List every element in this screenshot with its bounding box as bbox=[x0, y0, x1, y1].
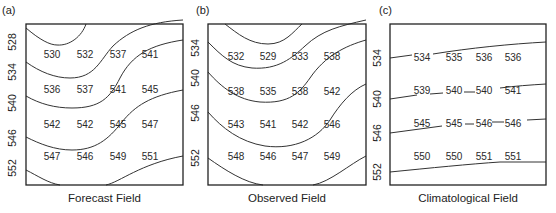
grid-value-label: 540 bbox=[446, 85, 463, 96]
y-tick-label: 528 bbox=[6, 33, 18, 51]
grid-value-label: 551 bbox=[476, 151, 493, 162]
grid-value-label: 545 bbox=[142, 84, 159, 95]
panel-label-a: (a) bbox=[2, 4, 15, 16]
grid-value-label: 548 bbox=[228, 151, 245, 162]
y-tick-label: 546 bbox=[189, 104, 201, 122]
grid-value-label: 535 bbox=[446, 52, 463, 63]
grid-value-label: 539 bbox=[414, 85, 431, 96]
panel-c: (c) 534540546552 53453553653653954054054… bbox=[371, 4, 546, 204]
grid-value-label: 549 bbox=[324, 151, 341, 162]
contour-line-534 bbox=[225, 24, 302, 44]
grid-value-label: 534 bbox=[414, 52, 431, 63]
y-tick-label: 546 bbox=[6, 129, 18, 147]
y-tick-label: 534 bbox=[371, 49, 383, 67]
grid-value-label: 532 bbox=[77, 49, 94, 60]
grid-value-label: 535 bbox=[260, 86, 277, 97]
caption-observed-field: Observed Field bbox=[248, 192, 326, 204]
grid-value-label: 529 bbox=[260, 51, 277, 62]
grid-value-label: 549 bbox=[110, 151, 127, 162]
grid-value-label: 541 bbox=[110, 84, 127, 95]
grid-value-label: 545 bbox=[414, 118, 431, 129]
panel-label-b: (b) bbox=[196, 4, 209, 16]
grid-value-label: 543 bbox=[228, 119, 245, 130]
y-tick-label: 540 bbox=[6, 94, 18, 112]
grid-value-label: 551 bbox=[505, 151, 522, 162]
y-tick-label: 540 bbox=[371, 90, 383, 108]
grid-value-label: 546 bbox=[260, 151, 277, 162]
grid-value-label: 547 bbox=[292, 151, 309, 162]
grid-value-label: 550 bbox=[446, 151, 463, 162]
grid-value-label: 542 bbox=[44, 119, 61, 130]
grid-value-label: 538 bbox=[292, 86, 309, 97]
y-tick-label: 552 bbox=[371, 163, 383, 181]
y-tick-label: 552 bbox=[6, 159, 18, 177]
grid-value-label: 530 bbox=[44, 49, 61, 60]
grid-value-label: 545 bbox=[110, 119, 127, 130]
y-tick-label: 534 bbox=[6, 63, 18, 81]
grid-value-label: 540 bbox=[476, 85, 493, 96]
contour-line-528 bbox=[26, 24, 86, 45]
grid-value-label: 547 bbox=[142, 119, 159, 130]
grid-value-label: 545 bbox=[446, 118, 463, 129]
grid-value-label: 541 bbox=[142, 49, 159, 60]
grid-value-label: 542 bbox=[324, 86, 341, 97]
panel-label-c: (c) bbox=[379, 4, 392, 16]
grid-value-label: 537 bbox=[77, 84, 94, 95]
grid-value-label: 551 bbox=[142, 151, 159, 162]
y-tick-label: 546 bbox=[371, 124, 383, 142]
caption-forecast-field: Forecast Field bbox=[68, 192, 141, 204]
grid-value-label: 546 bbox=[324, 119, 341, 130]
panel-a: (a) 528534540546552 53053253754153653754… bbox=[2, 4, 183, 204]
grid-value-label: 536 bbox=[476, 52, 493, 63]
grid-value-label: 536 bbox=[505, 52, 522, 63]
figure: (a) 528534540546552 53053253754153653754… bbox=[0, 0, 556, 213]
grid-value-label: 536 bbox=[44, 84, 61, 95]
grid-value-label: 538 bbox=[228, 86, 245, 97]
y-tick-label: 534 bbox=[189, 39, 201, 57]
grid-value-label: 541 bbox=[260, 119, 277, 130]
grid-value-label: 546 bbox=[77, 151, 94, 162]
grid-value-label: 542 bbox=[292, 119, 309, 130]
panel-b: (b) 534540546552 53252953353853853553854… bbox=[189, 4, 366, 204]
contour-line-552 bbox=[390, 162, 546, 172]
caption-climatological-field: Climatological Field bbox=[418, 192, 518, 204]
y-tick-label: 540 bbox=[189, 69, 201, 87]
grid-value-label: 538 bbox=[324, 51, 341, 62]
grid-value-label: 546 bbox=[505, 118, 522, 129]
grid-value-label: 542 bbox=[77, 119, 94, 130]
grid-value-label: 533 bbox=[292, 51, 309, 62]
grid-value-label: 547 bbox=[44, 151, 61, 162]
grid-value-label: 537 bbox=[110, 49, 127, 60]
grid-value-label: 550 bbox=[414, 151, 431, 162]
y-tick-label: 552 bbox=[189, 149, 201, 167]
grid-value-label: 546 bbox=[476, 118, 493, 129]
grid-value-label: 541 bbox=[505, 85, 522, 96]
grid-value-label: 532 bbox=[228, 51, 245, 62]
